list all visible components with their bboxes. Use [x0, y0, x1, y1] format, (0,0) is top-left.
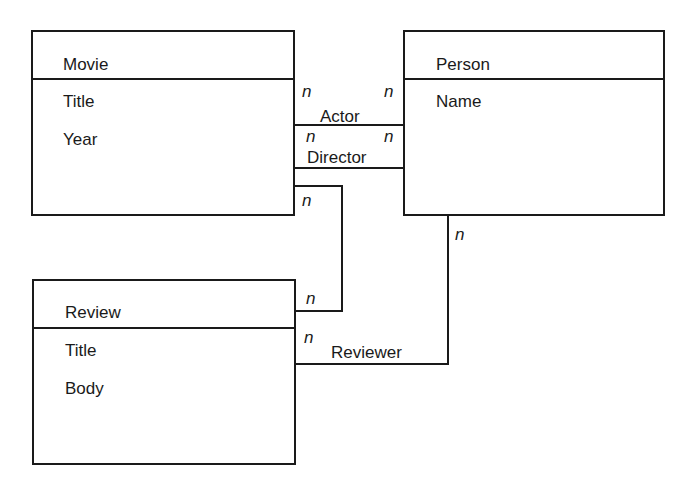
multiplicity: n: [384, 127, 393, 146]
entity-movie: Movie Title Year: [32, 31, 294, 215]
multiplicity: n: [302, 191, 311, 210]
multiplicity: n: [304, 328, 313, 347]
relationship-label: Actor: [320, 107, 360, 126]
entity-person: Person Name: [404, 31, 664, 215]
relationship-label: Reviewer: [331, 343, 402, 362]
relationship-movie-review: n n: [294, 186, 342, 311]
entity-title: Review: [65, 303, 121, 322]
relationship-label: Director: [307, 148, 367, 167]
relationship-reviewer: Reviewer n n: [295, 215, 464, 364]
attribute: Title: [63, 92, 95, 111]
attribute: Year: [63, 130, 98, 149]
attribute: Title: [65, 341, 97, 360]
attribute: Body: [65, 379, 104, 398]
multiplicity: n: [306, 127, 315, 146]
multiplicity: n: [302, 82, 311, 101]
multiplicity: n: [306, 289, 315, 308]
relationship-director: Director n n: [294, 127, 404, 168]
er-diagram: Movie Title Year Person Name Review Titl…: [0, 0, 690, 483]
entity-title: Movie: [63, 55, 108, 74]
entity-review: Review Title Body: [33, 280, 295, 464]
relationship-actor: Actor n n: [294, 82, 404, 126]
entity-title: Person: [436, 55, 490, 74]
multiplicity: n: [455, 225, 464, 244]
multiplicity: n: [384, 82, 393, 101]
attribute: Name: [436, 92, 481, 111]
connector-line: [295, 215, 448, 364]
